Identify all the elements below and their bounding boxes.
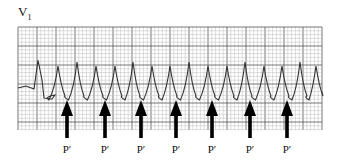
p-prime-label: P′ bbox=[101, 143, 110, 155]
p-prime-label: P′ bbox=[63, 143, 72, 155]
ecg-strip bbox=[0, 0, 338, 160]
p-prime-label: P′ bbox=[137, 143, 146, 155]
p-prime-label: P′ bbox=[208, 143, 217, 155]
arrow-up-icon bbox=[281, 100, 293, 116]
p-prime-label: P′ bbox=[246, 143, 255, 155]
p-prime-label: P′ bbox=[172, 143, 181, 155]
p-prime-label: P′ bbox=[283, 143, 292, 155]
arrow-up-icon bbox=[135, 100, 147, 116]
p-wave-arrows bbox=[61, 100, 293, 138]
arrow-up-icon bbox=[170, 100, 182, 116]
